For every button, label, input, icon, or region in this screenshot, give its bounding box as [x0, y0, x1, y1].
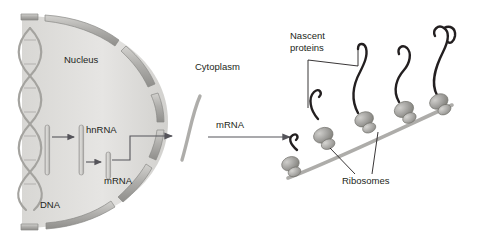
envelope-segment	[21, 224, 38, 230]
ribosomes-label: Ribosomes	[342, 175, 390, 186]
hnrna-bar	[79, 125, 84, 175]
envelope-segment	[21, 14, 38, 20]
dna-label: DNA	[40, 199, 61, 210]
nucleus-group: Nucleus hnRNA mRNA DNA	[18, 14, 172, 230]
ribosome	[311, 125, 338, 153]
nascent-proteins-label-line1: Nascent	[290, 30, 325, 41]
nascent-protein-chain	[434, 27, 448, 95]
nascent-proteins-leader	[308, 50, 358, 108]
ribosomes-leader	[372, 132, 378, 174]
mrna-nuclear-label: mRNA	[104, 175, 133, 186]
nascent-protein-chain	[290, 134, 297, 150]
nascent-protein-chain	[354, 44, 367, 113]
diagram-canvas: Nucleus hnRNA mRNA DNA Cytoplasm mRNA	[0, 0, 477, 246]
dna-gene-bar	[45, 125, 50, 175]
ribosome	[352, 109, 378, 136]
nascent-protein-chain	[311, 90, 321, 119]
cytoplasm-group: Cytoplasm mRNA	[182, 61, 290, 160]
ribosome	[280, 154, 304, 180]
mrna-cytoplasmic-label: mRNA	[216, 119, 245, 130]
nascent-proteins-callout: Nascent proteins	[290, 30, 358, 108]
ribosomes	[280, 91, 454, 180]
hnrna-label: hnRNA	[86, 124, 117, 135]
cytoplasm-label: Cytoplasm	[195, 61, 240, 72]
nascent-proteins-label-line2: proteins	[290, 42, 324, 53]
nucleus-label: Nucleus	[64, 54, 99, 65]
ribosomes-callout: Ribosomes	[330, 132, 390, 186]
nascent-protein-chain	[396, 46, 410, 102]
nucleus-body	[22, 16, 168, 228]
free-mrna-strand	[182, 96, 200, 160]
